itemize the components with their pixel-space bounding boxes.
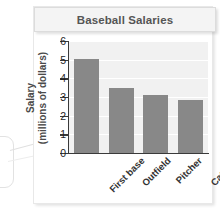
x-tick-label-2: Pitcher [173,155,204,186]
x-axis-labels: First baseOutfieldPitcherCatcher [69,155,208,205]
y-axis-line [68,41,69,154]
plot-area [69,41,208,153]
bar-3 [178,100,203,153]
bar-2 [143,95,168,153]
y-axis-title: Salary (millions of dollars) [25,44,48,152]
chart-title: Baseball Salaries [77,14,173,26]
y-axis-title-line2: (millions of dollars) [37,44,49,152]
bar-1 [109,88,134,153]
y-axis-title-line1: Salary [25,44,37,152]
bar-0 [74,59,99,153]
x-tick-label-0: First base [107,155,147,195]
callout-box [0,136,14,188]
bar-series [69,41,208,153]
chart-figure: Baseball Salaries 0123456 Salary (millio… [0,0,220,213]
